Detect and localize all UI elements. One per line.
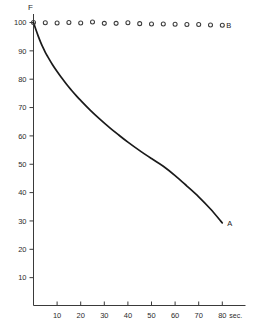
x-tick-label: 40 (124, 311, 132, 320)
series-b-markers (32, 20, 225, 27)
y-tick-label: 10 (18, 273, 26, 282)
y-axis-title: F (28, 3, 33, 12)
series-b-marker (43, 21, 47, 25)
series-b-marker (220, 23, 224, 27)
series-b-marker (67, 21, 71, 25)
series-b-marker (126, 21, 130, 25)
y-tick-label: 50 (18, 160, 26, 169)
series-b-marker (173, 22, 177, 26)
x-tick-label: 50 (147, 311, 155, 320)
series-b-marker (150, 22, 154, 26)
series-b-marker (185, 22, 189, 26)
series-b-marker (55, 21, 59, 25)
y-axis-ticks: 102030405060708090100 (14, 18, 34, 282)
axes-group (34, 14, 246, 306)
series-b-marker (209, 23, 213, 27)
x-tick-label: 20 (77, 311, 85, 320)
y-tick-label: 100 (14, 18, 27, 27)
x-axis-unit-label: sec. (229, 312, 242, 319)
x-tick-label: 80 (218, 311, 226, 320)
series-b-marker (102, 21, 106, 25)
x-axis-ticks: 1020304050607080 (53, 302, 227, 320)
series-b-marker (91, 20, 95, 24)
chart-figure: 102030405060708090100 1020304050607080 A… (0, 0, 263, 324)
x-tick-label: 70 (195, 311, 203, 320)
y-tick-label: 30 (18, 217, 26, 226)
series-a-curve (34, 23, 223, 223)
series-b-label: B (226, 21, 231, 30)
x-tick-label: 60 (171, 311, 179, 320)
x-tick-label: 30 (100, 311, 108, 320)
series-a-line (34, 23, 223, 223)
y-tick-label: 70 (18, 103, 26, 112)
y-tick-label: 90 (18, 47, 26, 56)
y-tick-label: 60 (18, 132, 26, 141)
series-b-marker (138, 22, 142, 26)
series-labels: AB (226, 21, 232, 228)
series-b-marker (114, 21, 118, 25)
y-tick-label: 80 (18, 75, 26, 84)
x-tick-label: 10 (53, 311, 61, 320)
series-b-marker (79, 21, 83, 25)
series-b-marker (197, 22, 201, 26)
y-tick-label: 20 (18, 245, 26, 254)
axis-titles: Fsec. (28, 3, 242, 319)
y-tick-label: 40 (18, 188, 26, 197)
chart-plot-area: 102030405060708090100 1020304050607080 A… (0, 0, 263, 324)
series-b-marker (161, 22, 165, 26)
series-a-label: A (227, 219, 232, 228)
